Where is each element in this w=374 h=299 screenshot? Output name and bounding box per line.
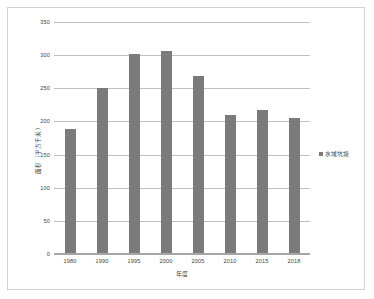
- y-axis-tick-labels: 050100150200250300350: [12, 22, 50, 254]
- gridline: [54, 254, 310, 255]
- bar-slot: [278, 22, 310, 254]
- bar: [65, 129, 76, 254]
- legend-item-label: 水域坑塘: [325, 149, 349, 158]
- plot-area: [54, 22, 310, 254]
- chart-frame: 面积（平方千米） 050100150200250300350 198019901…: [7, 7, 365, 290]
- bar-series: [54, 22, 310, 254]
- bar: [161, 51, 172, 254]
- x-axis-tick-label: 2010: [214, 258, 246, 264]
- y-axis-tick-label: 300: [14, 52, 50, 58]
- bar-slot: [214, 22, 246, 254]
- bar: [129, 54, 140, 254]
- y-axis-tick-label: 50: [14, 218, 50, 224]
- bar: [289, 118, 300, 254]
- x-axis-title: 年度: [54, 269, 310, 278]
- legend-square-marker-icon: [319, 152, 323, 156]
- x-axis-tick-labels: 19801990199520002005201020152018: [54, 258, 310, 264]
- bar-slot: [118, 22, 150, 254]
- x-axis-tick-label: 1990: [86, 258, 118, 264]
- bar-slot: [54, 22, 86, 254]
- bar: [257, 110, 268, 255]
- y-axis-tick-label: 150: [14, 152, 50, 158]
- bar: [193, 76, 204, 254]
- y-axis-tick-label: 350: [14, 19, 50, 25]
- bar: [97, 88, 108, 254]
- bar-slot: [86, 22, 118, 254]
- legend: 水域坑塘: [319, 149, 349, 158]
- x-axis-tick-label: 2018: [278, 258, 310, 264]
- y-axis-tick-label: 200: [14, 118, 50, 124]
- y-axis-tick-label: 0: [14, 251, 50, 257]
- bar-slot: [246, 22, 278, 254]
- x-axis-tick-label: 2005: [182, 258, 214, 264]
- x-axis-tick-label: 2015: [246, 258, 278, 264]
- y-axis-tick-label: 250: [14, 85, 50, 91]
- x-axis-tick-label: 2000: [150, 258, 182, 264]
- bar-slot: [182, 22, 214, 254]
- bar-slot: [150, 22, 182, 254]
- x-axis-tick-label: 1980: [54, 258, 86, 264]
- bar: [225, 115, 236, 254]
- y-axis-tick-label: 100: [14, 185, 50, 191]
- x-axis-tick-label: 1995: [118, 258, 150, 264]
- x-axis-line: [54, 253, 310, 254]
